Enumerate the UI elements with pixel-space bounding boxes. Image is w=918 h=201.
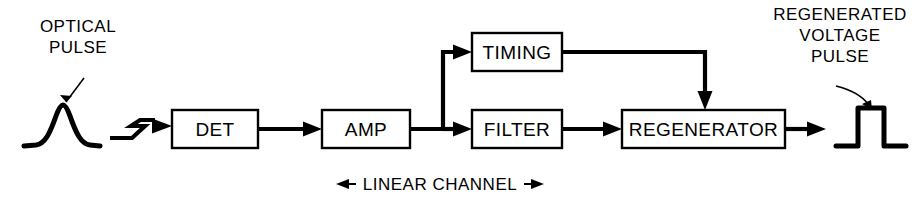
regenerated-pulse-label-line-2: VOLTAGE — [799, 26, 880, 45]
optical-fiber-zigzag-icon — [110, 119, 172, 139]
regenerated-pulse-callout-text: REGENERATED VOLTAGE PULSE — [773, 5, 907, 66]
regenerated-pulse-label-line-1: REGENERATED — [773, 5, 907, 24]
block-amp[interactable]: AMP — [322, 110, 410, 148]
optical-pulse-label-line-2: PULSE — [49, 38, 107, 57]
block-det-label: DET — [195, 119, 234, 140]
regenerated-pulse-wave — [836, 108, 906, 146]
optical-pulse-wave — [24, 105, 100, 146]
connector-regenerator-to-output — [785, 122, 826, 137]
linear-channel-bracket: LINEAR CHANNEL — [336, 175, 544, 194]
block-det[interactable]: DET — [172, 110, 258, 148]
connector-branch-to-filter — [443, 122, 472, 137]
block-regenerator-label: REGENERATOR — [629, 119, 778, 140]
connector-timing-to-regenerator — [562, 52, 713, 110]
diagram-canvas: DET AMP TIMING — [0, 0, 918, 201]
block-filter-label: FILTER — [484, 119, 550, 140]
block-regenerator[interactable]: REGENERATOR — [622, 110, 785, 148]
optical-pulse-label-line-1: OPTICAL — [40, 17, 116, 36]
regenerated-pulse-callout-arrow — [836, 86, 872, 110]
connector-branch-to-timing — [443, 45, 472, 132]
optical-pulse-callout-arrow — [60, 78, 84, 102]
regenerated-pulse-label-line-3: PULSE — [811, 47, 869, 66]
optical-pulse-callout-text: OPTICAL PULSE — [40, 17, 116, 57]
block-amp-label: AMP — [345, 119, 387, 140]
block-filter[interactable]: FILTER — [472, 110, 562, 148]
block-timing-label: TIMING — [483, 42, 552, 63]
optical-receiver-block-diagram: DET AMP TIMING — [0, 0, 918, 201]
linear-channel-label: LINEAR CHANNEL — [363, 175, 517, 194]
block-timing[interactable]: TIMING — [472, 33, 562, 71]
connector-filter-to-regenerator — [562, 122, 622, 137]
connector-det-to-amp — [258, 122, 322, 137]
